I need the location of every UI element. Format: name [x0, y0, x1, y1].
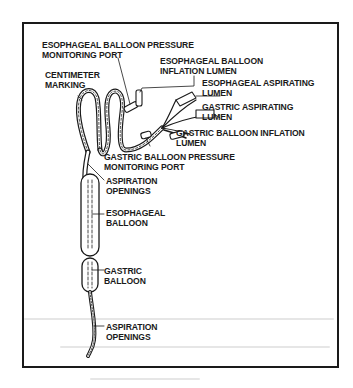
esophageal-inflation-port [136, 90, 142, 106]
gastric-balloon [82, 258, 98, 292]
leader-esophageal-inflation [140, 76, 194, 92]
esophageal-aspirating-connector [176, 92, 196, 106]
esophageal-balloon [81, 174, 99, 256]
label-lower-aspiration-openings: ASPIRATION OPENINGS [106, 322, 157, 342]
label-gastric-balloon-inflation-lumen: GASTRIC BALLOON INFLATION LUMEN [176, 128, 305, 148]
label-gastric-aspirating-lumen: GASTRIC ASPIRATING LUMEN [202, 102, 293, 122]
label-esophageal-balloon: ESOPHAGEAL BALLOON [106, 208, 165, 228]
tube-coil-right [100, 91, 162, 154]
label-gastric-balloon-pressure-port: GASTRIC BALLOON PRESSURE MONITORING PORT [104, 152, 235, 172]
label-centimeter-marking: CENTIMETER MARKING [45, 70, 100, 90]
label-gastric-balloon: GASTRIC BALLOON [104, 266, 146, 286]
label-upper-aspiration-openings: ASPIRATION OPENINGS [106, 176, 157, 196]
label-esophageal-balloon-inflation-lumen: ESOPHAGEAL BALLOON INFLATION LUMEN [160, 56, 263, 76]
label-esophageal-aspirating-lumen: ESOPHAGEAL ASPIRATING LUMEN [202, 78, 314, 98]
